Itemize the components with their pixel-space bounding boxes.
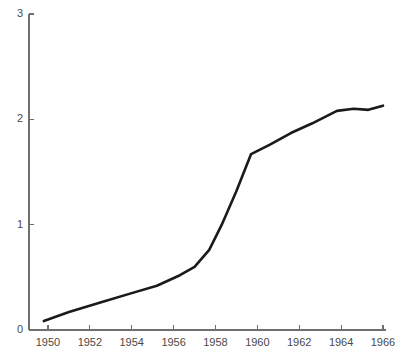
x-tick-label: 1960	[245, 336, 269, 348]
x-tick-label: 1956	[161, 336, 185, 348]
x-tick-label: 1954	[120, 336, 144, 348]
y-tick-label: 1	[17, 218, 23, 230]
x-tick-label: 1964	[329, 336, 353, 348]
line-chart: 0123 19501952195419561958196019621964196…	[0, 0, 403, 360]
y-tick-label: 2	[17, 112, 23, 124]
chart-background	[0, 0, 403, 360]
x-tick-label: 1966	[371, 336, 395, 348]
x-tick-label: 1962	[287, 336, 311, 348]
chart-container: 0123 19501952195419561958196019621964196…	[0, 0, 403, 360]
x-tick-label: 1952	[78, 336, 102, 348]
y-tick-label: 0	[17, 323, 23, 335]
y-tick-label: 3	[17, 7, 23, 19]
x-tick-label: 1958	[203, 336, 227, 348]
x-tick-label: 1950	[36, 336, 60, 348]
